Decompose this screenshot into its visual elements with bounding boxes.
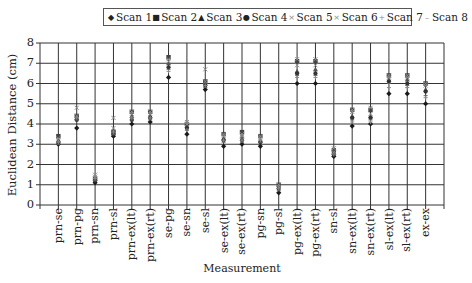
x-tick-label: prn-ex(lt) [125, 208, 138, 260]
x-tick-label: se-ex(rt) [236, 208, 249, 255]
legend-label: Scan 7 [387, 11, 423, 23]
data-point [405, 91, 410, 96]
data-point [74, 125, 79, 130]
x-tick-label: sn-ex(rt) [364, 208, 377, 255]
legend-marker-icon: ▲ [197, 13, 205, 22]
data-point [387, 86, 391, 90]
x-tick-label: prn-ex(rt) [144, 208, 157, 262]
legend-item: ◆Scan 1 [107, 11, 152, 23]
x-tick-label: prn-pg [70, 208, 83, 245]
data-point [129, 121, 134, 126]
x-tick-label: ex-ex [419, 208, 432, 237]
y-tick-label: 3 [20, 136, 34, 150]
x-tick-label: sn-ex(lt) [346, 208, 359, 254]
chart-legend: ◆Scan 1■Scan 2▲Scan 3●Scan 4×Scan 5×Scan… [103, 8, 412, 26]
y-tick-label: 8 [20, 35, 34, 49]
legend-label: Scan 5 [297, 11, 333, 23]
data-point [166, 65, 170, 69]
x-tick-label: se-pg [162, 208, 175, 238]
data-point [295, 75, 299, 79]
y-tick-label: 5 [20, 96, 34, 110]
legend-marker-icon: ◆ [107, 13, 115, 22]
x-tick-label: sl-ex(rt) [401, 208, 414, 252]
y-tick-label: 6 [20, 76, 34, 90]
data-point [313, 71, 317, 75]
data-point [405, 81, 409, 85]
legend-label: Scan 1 [116, 11, 152, 23]
legend-item: ×Scan 6 [333, 11, 378, 23]
x-tick-label: se-sn [180, 208, 193, 237]
data-point [166, 75, 171, 80]
legend-marker-icon: + [378, 13, 386, 22]
data-point [167, 69, 171, 73]
data-point [387, 79, 391, 83]
data-point [184, 132, 189, 137]
plot-grid [36, 43, 444, 209]
x-tick-label: prn-se [52, 208, 65, 243]
x-axis-label: Measurement [203, 262, 280, 275]
x-tick-label: pg-sl [272, 208, 285, 235]
legend-label: Scan 6 [342, 11, 378, 23]
x-tick-label: se-ex(lt) [217, 208, 230, 253]
x-tick-label: pg-sn [254, 208, 267, 239]
legend-item: ×Scan 5 [288, 11, 333, 23]
data-point [386, 91, 391, 96]
legend-item: ■Scan 2 [152, 11, 197, 23]
x-tick-label: sl-ex(lt) [382, 208, 395, 250]
data-point [313, 75, 317, 79]
x-tick-label: pg-ex(lt) [291, 208, 304, 255]
y-axis-label: Euclidean Distance (cm) [5, 54, 19, 197]
legend-marker-icon: × [288, 13, 296, 22]
data-point [350, 120, 354, 124]
data-point [295, 71, 299, 75]
y-tick-label: 1 [20, 177, 34, 191]
x-tick-label: prn-sn [89, 208, 102, 244]
x-tick-label: sn-sl [327, 208, 340, 234]
legend-item: +Scan 7 [378, 11, 423, 23]
legend-label: Scan 2 [161, 11, 197, 23]
y-tick-label: 2 [20, 157, 34, 171]
data-point [424, 96, 428, 100]
x-tick-label: prn-sl [107, 208, 120, 240]
data-point [423, 101, 428, 106]
legend-item: ●Scan 4 [242, 11, 287, 23]
data-point [313, 81, 318, 86]
x-tick-label: pg-ex(rt) [309, 208, 322, 257]
legend-item: ▲Scan 3 [197, 11, 242, 23]
legend-marker-icon: × [333, 13, 341, 22]
legend-label: Scan 8 [432, 11, 468, 23]
y-tick-label: 4 [20, 116, 34, 130]
data-point [368, 116, 372, 120]
legend-marker-icon: – [423, 13, 431, 22]
data-point [294, 81, 299, 86]
data-point [405, 86, 409, 90]
y-tick-label: 0 [20, 197, 34, 211]
legend-item: –Scan 8 [423, 11, 468, 23]
legend-label: Scan 4 [251, 11, 287, 23]
y-tick-label: 7 [20, 55, 34, 69]
legend-marker-icon: ● [242, 13, 250, 22]
data-point [424, 90, 428, 94]
legend-marker-icon: ■ [152, 13, 160, 22]
data-point [350, 116, 354, 120]
x-tick-label: se-sl [199, 208, 212, 233]
legend-label: Scan 3 [206, 11, 242, 23]
